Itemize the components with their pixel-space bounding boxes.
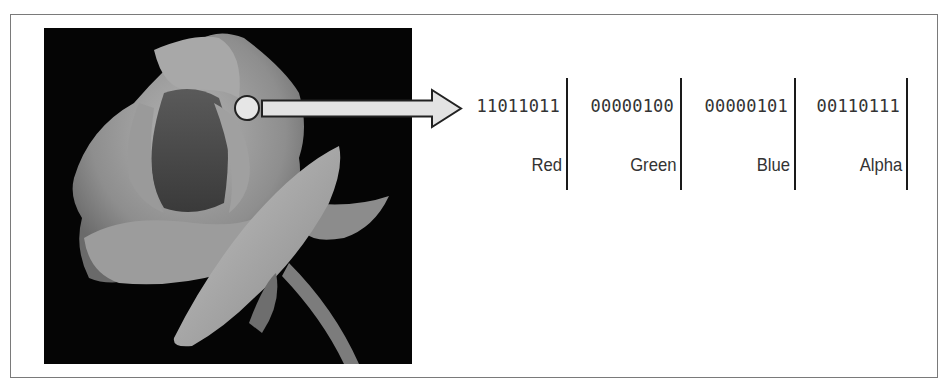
channel-red: 11011011 Red (456, 78, 568, 190)
channel-bits: 00000100 (591, 96, 674, 116)
channel-label: Red (531, 154, 562, 176)
channel-bits: 00110111 (817, 96, 900, 116)
rose-photo (44, 28, 412, 364)
channel-bits: 11011011 (477, 96, 560, 116)
channel-label: Alpha (859, 154, 902, 176)
channel-bits: 00000101 (705, 96, 788, 116)
channel-blue: 00000101 Blue (682, 78, 796, 190)
channel-label: Green (630, 154, 676, 176)
channel-label: Blue (757, 154, 790, 176)
channel-green: 00000100 Green (568, 78, 682, 190)
channel-alpha: 00110111 Alpha (796, 78, 908, 190)
